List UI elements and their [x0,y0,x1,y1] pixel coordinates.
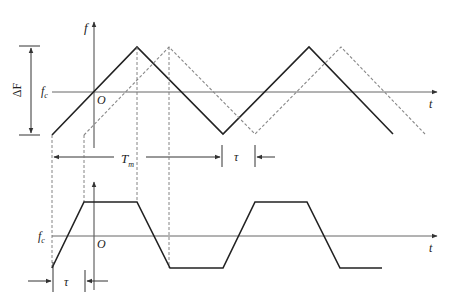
f-axis-label: f [84,21,88,34]
delta-f-label: ΔF [11,83,23,97]
tm-label: Tm [121,152,134,169]
diagram: f fc O t ΔF Tm τ fc O t τ [0,0,455,305]
diagram-canvas [0,0,455,305]
bottom-panel [28,182,437,292]
tau-bottom-label: τ [64,276,68,288]
beat-frequency-signal [52,202,382,268]
fc-bottom-label: fc [38,230,45,245]
tau-top-label: τ [234,151,238,163]
origin-bottom-label: O [97,238,106,250]
t-axis-top-label: t [429,98,432,110]
transmitted-signal [52,47,393,135]
fc-top-label: fc [41,85,48,100]
received-signal [84,47,425,135]
t-axis-bottom-label: t [429,242,432,254]
origin-top-label: O [97,94,106,106]
top-panel [19,22,437,167]
